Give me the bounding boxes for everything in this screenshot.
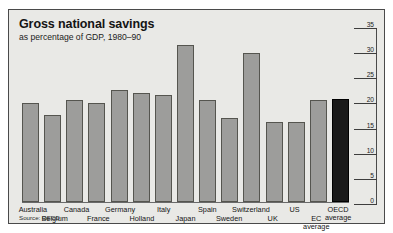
bar-series xyxy=(22,28,349,202)
y-tick-label: 5 xyxy=(370,172,374,179)
bar-italy xyxy=(155,95,172,202)
bar-ec-average xyxy=(310,100,327,202)
x-label-spain: Spain xyxy=(198,206,217,214)
bar-sweden xyxy=(221,118,238,203)
bar-belgium xyxy=(44,115,61,202)
bar-spain xyxy=(199,100,216,202)
y-tick-label: 15 xyxy=(367,122,374,129)
screenshot-root: Gross national savings as percentage of … xyxy=(0,0,393,233)
chart-panel: Gross national savings as percentage of … xyxy=(8,9,385,224)
x-axis-labels: AustraliaBelgiumCanadaFranceGermanyHolla… xyxy=(22,206,349,233)
y-axis-line xyxy=(376,28,377,204)
y-tick-label: 30 xyxy=(367,46,374,53)
y-tick-10: 10 xyxy=(354,154,377,155)
bar-japan xyxy=(177,45,194,202)
bar-germany xyxy=(111,90,128,202)
x-label-france: France xyxy=(87,215,110,223)
y-tick-label: 35 xyxy=(367,21,374,28)
y-tick-20: 20 xyxy=(354,103,377,104)
y-tick-15: 15 xyxy=(354,129,377,130)
x-label-australia: Australia xyxy=(19,206,47,214)
y-tick-label: 25 xyxy=(367,71,374,78)
x-axis-baseline xyxy=(22,202,349,203)
x-label-switzerland: Switzerland xyxy=(232,206,270,214)
x-label-sweden: Sweden xyxy=(216,215,242,223)
y-tick-label: 10 xyxy=(367,147,374,154)
x-label-us: US xyxy=(289,206,299,214)
bar-holland xyxy=(133,93,150,202)
y-tick-label: 20 xyxy=(367,96,374,103)
source-note: Source: OECD xyxy=(19,214,60,221)
x-label-germany: Germany xyxy=(105,206,135,214)
x-label-italy: Italy xyxy=(157,206,170,214)
bar-uk xyxy=(266,122,283,202)
y-axis: 05101520253035 xyxy=(354,28,384,204)
y-tick-35: 35 xyxy=(354,28,377,29)
y-tick-25: 25 xyxy=(354,78,377,79)
plot-area xyxy=(22,28,349,203)
x-label-holland: Holland xyxy=(130,215,155,223)
bar-us xyxy=(288,122,305,202)
x-label-uk: UK xyxy=(268,215,278,223)
x-label-japan: Japan xyxy=(176,215,196,223)
bar-france xyxy=(88,103,105,202)
bar-australia xyxy=(22,103,39,202)
x-label-canada: Canada xyxy=(64,206,90,214)
y-tick-5: 5 xyxy=(354,179,377,180)
y-tick-0: 0 xyxy=(354,204,377,205)
bar-oecd-average xyxy=(332,99,349,202)
bar-switzerland xyxy=(243,53,260,202)
bar-canada xyxy=(66,100,83,202)
x-label-oecd-average: OECDaverage xyxy=(325,206,351,222)
y-tick-30: 30 xyxy=(354,53,377,54)
y-tick-label: 0 xyxy=(370,197,374,204)
